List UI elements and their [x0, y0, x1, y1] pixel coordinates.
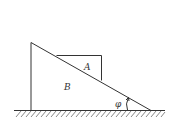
- label-block-a: A: [83, 62, 91, 72]
- block-a: [57, 56, 102, 81]
- angle-arrow-icon: [126, 98, 129, 111]
- label-angle-phi: φ: [115, 99, 122, 109]
- diagram-canvas: A B φ: [0, 0, 179, 134]
- wedge-b: [31, 43, 151, 111]
- label-wedge-b: B: [63, 82, 71, 92]
- ground-hatching: [16, 111, 165, 117]
